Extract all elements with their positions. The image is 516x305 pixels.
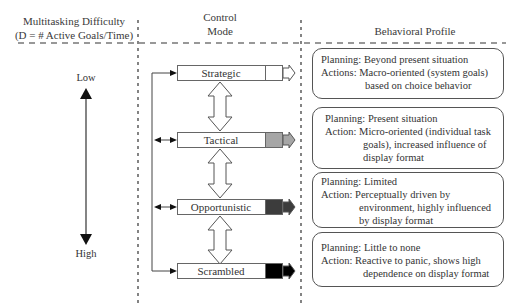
- control-mode-label: Opportunistic: [178, 200, 264, 214]
- difficulty-header-line2: (D = # Active Goals/Time): [10, 28, 138, 42]
- profile-action-cont: environment, highly influenced: [321, 201, 497, 214]
- profile-planning: Planning: Limited: [321, 175, 497, 188]
- control-mode-opportunistic: Opportunistic: [177, 199, 283, 215]
- mode-output-arrows: [283, 65, 295, 279]
- scale-high-label: High: [72, 248, 100, 259]
- control-mode-label: Strategic: [178, 66, 264, 80]
- profile-action-cont: display format: [325, 151, 497, 164]
- behavioral-profile-header: Behavioral Profile: [340, 24, 490, 38]
- difficulty-header: Multitasking Difficulty (D = # Active Go…: [10, 14, 138, 42]
- control-header-line1: Control: [180, 10, 260, 24]
- profile-action-cont: by display format: [321, 214, 497, 227]
- scale-low-label: Low: [74, 72, 98, 83]
- feedback-bracket: [152, 70, 177, 274]
- profile-action: Action: Micro-oriented (individual task: [325, 125, 497, 138]
- profile-planning: Planning: Beyond present situation: [321, 53, 497, 66]
- mode-indicator-dark: [265, 200, 282, 214]
- profile-opportunistic: Planning: Limited Action: Perceptually d…: [312, 172, 504, 228]
- profile-action: Action: Perceptually driven by: [321, 188, 497, 201]
- profile-action: Action: Reactive to panic, shows high: [321, 254, 497, 267]
- difficulty-header-line1: Multitasking Difficulty: [10, 14, 138, 28]
- control-mode-label: Tactical: [178, 133, 264, 147]
- profile-tactical: Planning: Present situation Action: Micr…: [312, 107, 504, 169]
- control-mode-strategic: Strategic: [177, 65, 283, 81]
- control-header-line2: Mode: [180, 24, 260, 38]
- control-mode-tactical: Tactical: [177, 132, 283, 148]
- mode-indicator-white: [265, 66, 282, 80]
- difficulty-scale-arrow: [80, 88, 92, 245]
- control-mode-label: Scrambled: [178, 264, 264, 278]
- profile-action: Actions: Macro-oriented (system goals): [321, 66, 497, 79]
- profile-strategic: Planning: Beyond present situation Actio…: [312, 48, 504, 99]
- control-mode-scrambled: Scrambled: [177, 263, 283, 279]
- profile-planning: Planning: Present situation: [325, 112, 497, 125]
- profile-action-cont: goals), increased influence of: [325, 138, 497, 151]
- mode-indicator-gray: [265, 133, 282, 147]
- control-mode-header: Control Mode: [180, 10, 260, 38]
- profile-planning: Planning: Little to none: [321, 241, 497, 254]
- profile-action-cont: dependence on display format: [321, 267, 497, 280]
- profile-scrambled: Planning: Little to none Action: Reactiv…: [312, 232, 504, 287]
- profile-action-cont: based on choice behavior: [321, 79, 497, 92]
- mode-transition-arrows: [208, 82, 232, 264]
- mode-indicator-black: [265, 264, 282, 278]
